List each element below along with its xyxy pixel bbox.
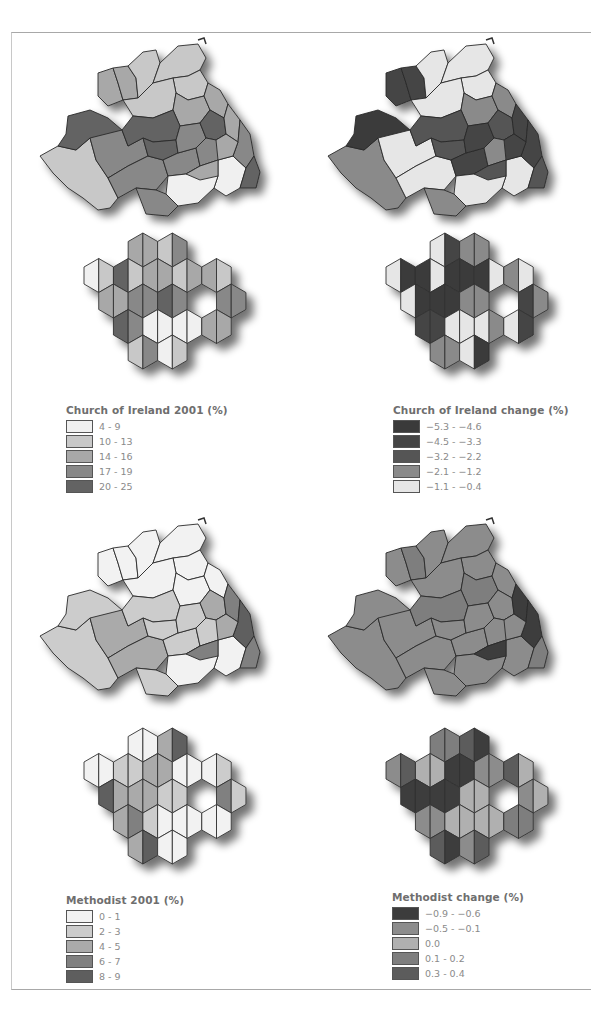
legend-swatch <box>393 480 420 493</box>
legend-swatch <box>393 450 420 463</box>
legend-swatch <box>66 465 93 478</box>
hex-cell <box>489 310 504 344</box>
legend-label: 0 - 1 <box>99 911 121 922</box>
legend-label: −2.1 - −1.2 <box>426 466 482 477</box>
island-outline <box>198 38 206 44</box>
hex-cartogram-methodist-2001 <box>70 725 260 885</box>
legend-title: Church of Ireland 2001 (%) <box>66 404 228 416</box>
legend-label: −5.3 - −4.6 <box>426 421 482 432</box>
map-church-of-ireland-change <box>316 38 566 223</box>
legend-swatch <box>392 922 419 935</box>
island-outline <box>198 518 206 524</box>
legend-item: −4.5 - −3.3 <box>393 434 569 449</box>
legend-item: 17 - 19 <box>66 464 228 479</box>
choropleth-map <box>28 38 278 223</box>
legend-item: 20 - 25 <box>66 479 228 494</box>
hex-cartogram-church-of-ireland-change <box>372 230 562 390</box>
hex-cell <box>231 284 246 318</box>
hex-cell <box>187 310 202 344</box>
hex-cartogram <box>372 230 562 390</box>
legend-item: 2 - 3 <box>66 924 184 939</box>
hex-cartogram <box>372 725 562 885</box>
legend-methodist-2001: Methodist 2001 (%) 0 - 1 2 - 3 4 - 5 6 -… <box>66 894 184 984</box>
hex-cell <box>533 779 548 813</box>
choropleth-map <box>28 518 278 703</box>
legend-item: 0.1 - 0.2 <box>392 951 524 966</box>
map-methodist-2001 <box>28 518 278 703</box>
legend-item: −2.1 - −1.2 <box>393 464 569 479</box>
hex-cell <box>504 754 519 788</box>
legend-swatch <box>66 940 93 953</box>
legend-label: 8 - 9 <box>99 971 121 982</box>
legend-item: 6 - 7 <box>66 954 184 969</box>
choropleth-map <box>316 518 566 703</box>
legend-swatch <box>392 907 419 920</box>
hex-cell <box>231 779 246 813</box>
legend-swatch <box>393 420 420 433</box>
map-methodist-change <box>316 518 566 703</box>
legend-item: −3.2 - −2.2 <box>393 449 569 464</box>
legend-item: 0.0 <box>392 936 524 951</box>
legend-label: 10 - 13 <box>99 436 133 447</box>
legend-item: 4 - 5 <box>66 939 184 954</box>
legend-church-of-ireland-change: Church of Ireland change (%) −5.3 - −4.6… <box>393 404 569 494</box>
legend-label: −0.5 - −0.1 <box>425 923 481 934</box>
legend-item: 8 - 9 <box>66 969 184 984</box>
legend-label: −4.5 - −3.3 <box>426 436 482 447</box>
legend-item: −1.1 - −0.4 <box>393 479 569 494</box>
legend-label: −3.2 - −2.2 <box>426 451 482 462</box>
legend-church-of-ireland-2001: Church of Ireland 2001 (%) 4 - 9 10 - 13… <box>66 404 228 494</box>
hex-cell <box>489 754 504 788</box>
hex-cell <box>202 754 217 788</box>
hex-cell <box>187 754 202 788</box>
legend-swatch <box>392 937 419 950</box>
legend-item: −0.5 - −0.1 <box>392 921 524 936</box>
legend-title: Church of Ireland change (%) <box>393 404 569 416</box>
legend-label: 4 - 9 <box>99 421 121 432</box>
hex-cell <box>202 259 217 293</box>
hex-cell <box>386 754 401 788</box>
hex-cell <box>187 805 202 839</box>
legend-label: 17 - 19 <box>99 466 133 477</box>
hex-cartogram-methodist-change <box>372 725 562 885</box>
map-church-of-ireland-2001 <box>28 38 278 223</box>
legend-swatch <box>66 955 93 968</box>
legend-label: 2 - 3 <box>99 926 121 937</box>
legend-swatch <box>66 450 93 463</box>
legend-methodist-change: Methodist change (%) −0.9 - −0.6 −0.5 - … <box>392 891 524 981</box>
legend-title: Methodist change (%) <box>392 891 524 903</box>
hex-cell <box>504 805 519 839</box>
hex-cell <box>202 310 217 344</box>
legend-label: 20 - 25 <box>99 481 133 492</box>
legend-swatch <box>392 967 419 980</box>
hex-cell <box>533 284 548 318</box>
legend-swatch <box>66 970 93 983</box>
hex-cell <box>386 259 401 293</box>
hex-cell <box>84 754 99 788</box>
legend-label: 0.0 <box>425 938 440 949</box>
hex-cartogram-church-of-ireland-2001 <box>70 230 260 390</box>
legend-swatch <box>393 465 420 478</box>
legend-label: −1.1 - −0.4 <box>426 481 482 492</box>
hex-cell <box>489 259 504 293</box>
legend-item: 0.3 - 0.4 <box>392 966 524 981</box>
legend-title: Methodist 2001 (%) <box>66 894 184 906</box>
legend-label: 0.1 - 0.2 <box>425 953 465 964</box>
legend-label: 14 - 16 <box>99 451 133 462</box>
legend-swatch <box>66 420 93 433</box>
island-outline <box>486 518 494 524</box>
legend-swatch <box>66 480 93 493</box>
legend-swatch <box>66 925 93 938</box>
island-outline <box>486 38 494 44</box>
legend-swatch <box>66 910 93 923</box>
legend-swatch <box>66 435 93 448</box>
hex-cell <box>504 259 519 293</box>
legend-label: −0.9 - −0.6 <box>425 908 481 919</box>
legend-swatch <box>392 952 419 965</box>
legend-item: −0.9 - −0.6 <box>392 906 524 921</box>
choropleth-map <box>316 38 566 223</box>
legend-swatch <box>393 435 420 448</box>
hex-cell <box>84 259 99 293</box>
legend-label: 4 - 5 <box>99 941 121 952</box>
hex-cell <box>504 310 519 344</box>
